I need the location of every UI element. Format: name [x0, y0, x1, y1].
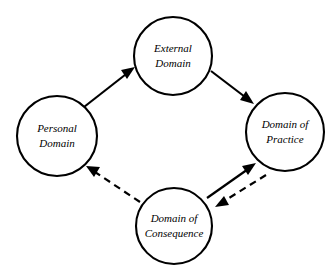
node-external-domain-label-line1: External [153, 42, 192, 54]
edge-practice-to-consequence-line [221, 175, 266, 203]
edge-practice-to-consequence-arrowhead [215, 196, 229, 207]
node-domain-of-consequence-label-line1: Domain of [150, 212, 200, 224]
edge-consequence-to-personal-arrowhead [86, 166, 100, 177]
node-domain-of-practice[interactable]: Domain of Practice [246, 93, 324, 171]
edge-personal-to-external [84, 67, 135, 107]
node-external-domain-label-line2: Domain [154, 57, 191, 69]
node-domain-of-practice-label-line2: Practice [265, 133, 303, 145]
edge-consequence-to-practice-line [207, 167, 251, 198]
edge-practice-to-consequence [215, 175, 266, 207]
node-personal-domain-label-line1: Personal [36, 122, 77, 134]
edge-consequence-to-personal-line [92, 170, 140, 202]
node-domain-of-practice-label-line1: Domain of [261, 118, 311, 130]
diagram-canvas: Personal Domain External Domain Domain o… [0, 0, 335, 275]
node-domain-of-consequence-label-line2: Consequence [145, 227, 204, 239]
domain-cycle-diagram: Personal Domain External Domain Domain o… [0, 0, 335, 275]
edge-external-to-practice-arrowhead [240, 91, 254, 104]
node-personal-domain[interactable]: Personal Domain [17, 96, 97, 176]
edge-external-to-practice [211, 71, 254, 104]
node-layer: Personal Domain External Domain Domain o… [17, 17, 324, 264]
edge-personal-to-external-line [84, 71, 130, 107]
node-domain-of-consequence[interactable]: Domain of Consequence [136, 188, 212, 264]
node-personal-domain-label-line2: Domain [38, 137, 75, 149]
edge-consequence-to-practice [207, 163, 256, 198]
edge-consequence-to-personal [86, 166, 140, 202]
node-external-domain[interactable]: External Domain [134, 17, 212, 95]
